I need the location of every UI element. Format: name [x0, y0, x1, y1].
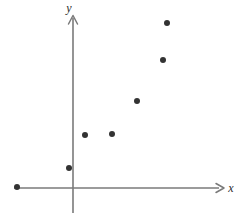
y-axis-label: y: [65, 1, 72, 15]
data-point: [164, 20, 170, 26]
data-point: [134, 98, 140, 104]
scatter-plot-figure: y x: [0, 0, 247, 219]
x-axis-label: x: [227, 181, 234, 195]
data-point: [66, 165, 72, 171]
data-point: [160, 57, 166, 63]
data-point: [14, 184, 20, 190]
plot-canvas: y x: [0, 0, 247, 219]
data-point: [82, 132, 88, 138]
data-point: [109, 131, 115, 137]
